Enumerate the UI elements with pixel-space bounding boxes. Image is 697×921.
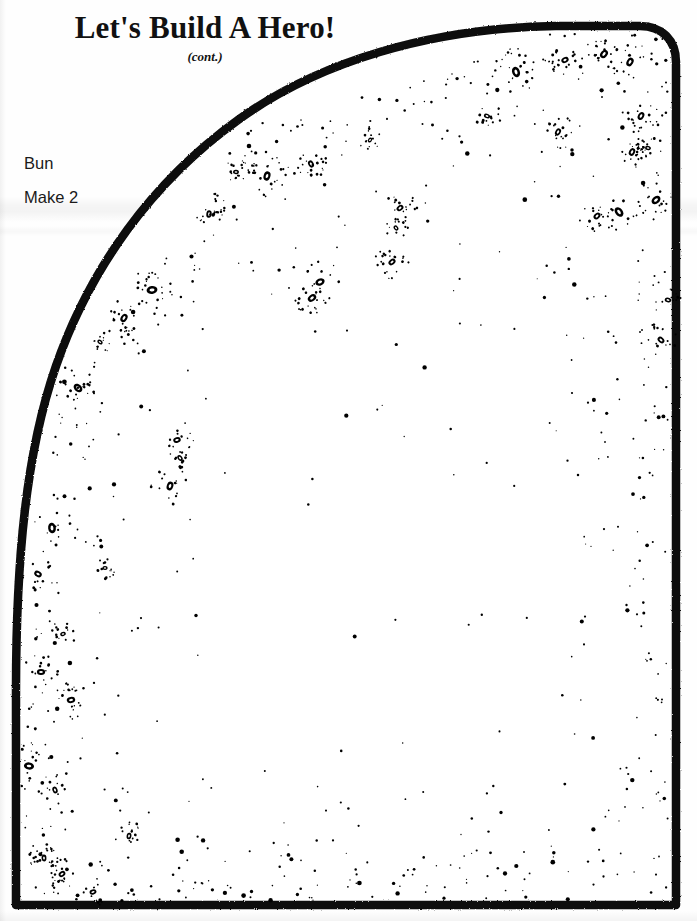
pattern-piece-quantity: Make 2 — [24, 189, 78, 206]
pattern-piece-labels: Bun Make 2 — [24, 155, 78, 205]
bun-pattern-outline — [0, 0, 697, 921]
title-block: Let's Build A Hero! (cont.) — [0, 12, 410, 65]
page-title: Let's Build A Hero! — [0, 12, 410, 45]
pattern-piece-name: Bun — [24, 155, 78, 172]
page-subtitle-cont: (cont.) — [0, 49, 410, 65]
pattern-page: Let's Build A Hero! (cont.) Bun Make 2 — [0, 0, 697, 921]
